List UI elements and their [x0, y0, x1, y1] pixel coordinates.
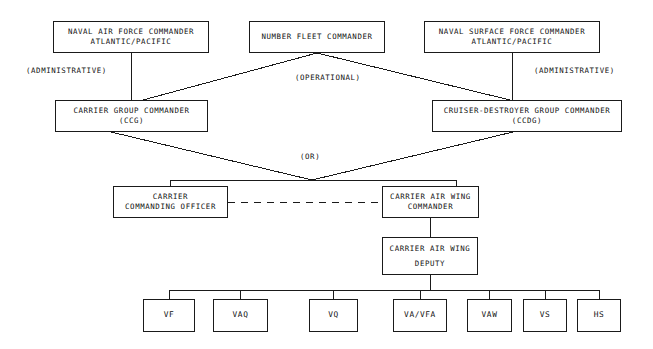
edge-label-or: (OR)	[300, 152, 320, 161]
node-line: ATLANTIC/PACIFIC	[472, 37, 553, 47]
node-line: ATLANTIC/PACIFIC	[91, 37, 172, 47]
node-squadron-vs[interactable]: VS	[523, 299, 567, 332]
node-line: CARRIER GROUP COMMANDER	[73, 106, 189, 116]
node-label: VAW	[482, 310, 498, 321]
node-squadron-va-vfa[interactable]: VA/VFA	[393, 299, 447, 332]
edge-nfc-to-ccg	[143, 53, 317, 100]
node-label: VS	[540, 310, 551, 321]
node-line: (CCDG)	[512, 116, 542, 126]
node-number-fleet-commander[interactable]: NUMBER FLEET COMMANDER	[249, 21, 385, 53]
edge-ccg-to-junction	[111, 132, 312, 180]
node-squadron-hs[interactable]: HS	[577, 299, 621, 332]
node-label: HS	[594, 310, 605, 321]
node-naval-surface-force-commander[interactable]: NAVAL SURFACE FORCE COMMANDER ATLANTIC/P…	[424, 21, 600, 53]
node-line: NAVAL SURFACE FORCE COMMANDER	[439, 27, 585, 37]
node-carrier-group-commander[interactable]: CARRIER GROUP COMMANDER (CCG)	[55, 100, 208, 132]
node-squadron-vq[interactable]: VQ	[309, 299, 358, 332]
node-line: CARRIER	[153, 192, 188, 202]
node-line: COMMANDER	[408, 202, 453, 212]
node-carrier-air-wing-commander[interactable]: CARRIER AIR WING COMMANDER	[382, 186, 479, 218]
node-line: NAVAL AIR FORCE COMMANDER	[68, 27, 194, 37]
node-squadron-vaq[interactable]: VAQ	[213, 299, 268, 332]
node-squadron-vf[interactable]: VF	[143, 299, 195, 332]
node-line: DEPUTY	[415, 259, 445, 269]
node-naval-air-force-commander[interactable]: NAVAL AIR FORCE COMMANDER ATLANTIC/PACIF…	[53, 21, 209, 53]
node-carrier-air-wing-deputy[interactable]: CARRIER AIR WING DEPUTY	[382, 237, 478, 275]
node-line: COMMANDING OFFICER	[125, 202, 216, 212]
node-line: CRUISER-DESTROYER GROUP COMMANDER	[444, 106, 611, 116]
node-label: VA/VFA	[404, 310, 436, 321]
node-label: VQ	[328, 310, 339, 321]
edge-ccdg-to-junction	[312, 132, 513, 180]
node-label: VF	[164, 310, 175, 321]
node-squadron-vaw[interactable]: VAW	[467, 299, 512, 332]
edge-label-administrative-right: (ADMINISTRATIVE)	[534, 66, 615, 75]
edge-label-operational: (OPERATIONAL)	[295, 73, 361, 82]
node-cruiser-destroyer-group-commander[interactable]: CRUISER-DESTROYER GROUP COMMANDER (CCDG)	[432, 100, 622, 132]
node-line: CARRIER AIR WING	[390, 192, 471, 202]
node-line: CARRIER AIR WING	[390, 244, 471, 254]
org-chart-diagram: NAVAL AIR FORCE COMMANDER ATLANTIC/PACIF…	[0, 0, 653, 349]
edge-label-administrative-left: (ADMINISTRATIVE)	[26, 66, 107, 75]
node-line: (CCG)	[119, 116, 144, 126]
node-label: VAQ	[233, 310, 249, 321]
node-carrier-commanding-officer[interactable]: CARRIER COMMANDING OFFICER	[113, 186, 228, 218]
node-line: NUMBER FLEET COMMANDER	[261, 32, 372, 42]
